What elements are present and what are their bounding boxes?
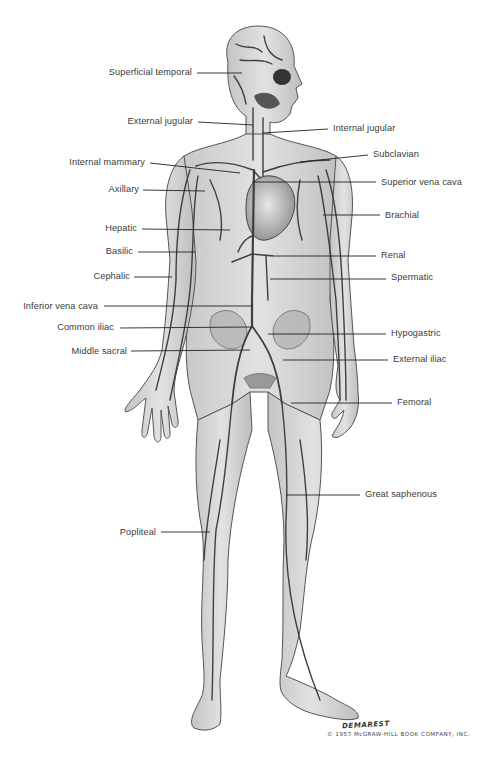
label-inferior-vena-cava: Inferior vena cava: [23, 301, 98, 312]
leader-internal-jugular: [263, 129, 328, 133]
label-subclavian: Subclavian: [373, 149, 419, 160]
label-common-iliac: Common iliac: [57, 322, 114, 333]
label-hepatic: Hepatic: [105, 223, 137, 234]
body-silhouette: [125, 26, 359, 730]
label-superficial-temporal: Superficial temporal: [109, 67, 192, 78]
label-superior-vena-cava: Superior vena cava: [381, 177, 462, 188]
copyright-notice: © 1957 McGRAW-HILL BOOK COMPANY, INC.: [327, 731, 470, 737]
left-arm: [330, 156, 359, 438]
right-arm: [125, 156, 196, 442]
human-body-figure: [0, 0, 489, 768]
label-middle-sacral: Middle sacral: [72, 346, 127, 357]
diagram-canvas: Superficial temporal External jugular In…: [0, 0, 489, 768]
label-internal-mammary: Internal mammary: [69, 157, 145, 168]
label-basilic: Basilic: [106, 246, 133, 257]
label-axillary: Axillary: [109, 184, 139, 195]
left-leg: [268, 392, 358, 720]
label-external-jugular: External jugular: [128, 116, 193, 127]
right-leg: [192, 392, 252, 730]
label-popliteal: Popliteal: [120, 527, 156, 538]
label-femoral: Femoral: [397, 397, 431, 408]
label-renal: Renal: [381, 250, 406, 261]
label-hypogastric: Hypogastric: [391, 328, 441, 339]
label-cephalic: Cephalic: [93, 271, 130, 282]
leader-external-jugular: [198, 122, 253, 125]
label-great-saphenous: Great saphenous: [365, 489, 437, 500]
label-internal-jugular: Internal jugular: [333, 123, 395, 134]
label-spermatic: Spermatic: [391, 272, 433, 283]
label-brachial: Brachial: [385, 210, 419, 221]
label-external-iliac: External iliac: [393, 354, 446, 365]
